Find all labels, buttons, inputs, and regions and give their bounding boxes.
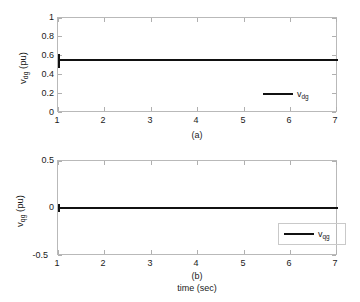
- x-tick-b-top-1: [58, 161, 59, 165]
- y-axis-label-b: vqg (pu): [14, 181, 26, 241]
- y-axis-label-a-text: vdg (pu): [17, 52, 28, 84]
- x-tick-b-top-3: [151, 161, 152, 165]
- y-tick-a-0_4: [58, 74, 62, 75]
- legend-label-vdg: vdg: [297, 89, 309, 100]
- x-tick-a-top-2: [104, 18, 105, 22]
- x-tick-a-4: [197, 107, 198, 111]
- x-tick-b-5: [244, 250, 245, 254]
- x-tick-a-top-4: [197, 18, 198, 22]
- data-trace-vqg-transient: [58, 204, 60, 212]
- x-tick-b-7: [336, 250, 337, 254]
- y-tick-label-a-0_8: 0.8: [28, 31, 54, 41]
- y-tick-a-right-0: [332, 112, 336, 113]
- x-tick-label-b-6: 6: [274, 258, 304, 268]
- x-tick-a-2: [104, 107, 105, 111]
- x-tick-a-top-3: [151, 18, 152, 22]
- legend-line-vqg: [284, 233, 314, 235]
- x-tick-label-a-5: 5: [228, 115, 258, 125]
- y-tick-label-a-1: 1: [28, 12, 54, 22]
- y-tick-a-0_2: [58, 93, 62, 94]
- x-tick-b-top-6: [290, 161, 291, 165]
- x-tick-a-top-1: [58, 18, 59, 22]
- x-tick-b-4: [197, 250, 198, 254]
- legend-label-vqg: vqg: [318, 229, 330, 240]
- plot-area-a: vdg: [57, 17, 337, 112]
- plot-area-b: vqg: [57, 160, 337, 255]
- x-tick-label-b-7: 7: [320, 258, 350, 268]
- y-tick-a-0: [58, 112, 62, 113]
- x-tick-label-a-6: 6: [274, 115, 304, 125]
- y-tick-a-right-0_4: [332, 74, 336, 75]
- x-tick-b-2: [104, 250, 105, 254]
- x-tick-b-3: [151, 250, 152, 254]
- legend-a: vdg: [263, 89, 309, 100]
- y-tick-a-right-0_6: [332, 55, 336, 56]
- subplot-caption-a: (a): [167, 130, 227, 140]
- x-tick-label-b-3: 3: [135, 258, 165, 268]
- data-trace-vdg: [58, 59, 338, 61]
- x-tick-a-top-7: [336, 18, 337, 22]
- x-tick-label-a-1: 1: [42, 115, 72, 125]
- x-tick-b-top-4: [197, 161, 198, 165]
- x-tick-label-a-7: 7: [320, 115, 350, 125]
- y-tick-a-0_8: [58, 36, 62, 37]
- x-tick-b-1: [58, 250, 59, 254]
- x-tick-a-7: [336, 107, 337, 111]
- x-tick-a-5: [244, 107, 245, 111]
- x-tick-label-b-1: 1: [42, 258, 72, 268]
- y-tick-b-neg0_5: [58, 255, 62, 256]
- subplot-a: vdg (pu) 1 0.8 0.6 0.4 0.2 0: [0, 0, 360, 150]
- x-tick-b-top-7: [336, 161, 337, 165]
- y-tick-label-b-0_5: 0.5: [28, 155, 54, 165]
- legend-b: vqg: [284, 229, 330, 240]
- data-trace-vqg: [58, 207, 338, 209]
- y-axis-label-b-text: vqg (pu): [14, 195, 25, 227]
- x-tick-a-6: [290, 107, 291, 111]
- y-tick-label-b-0: 0: [28, 202, 54, 212]
- subplot-b: vqg (pu) 0.5 0 -0.5: [0, 150, 360, 302]
- figure-canvas: vdg (pu) 1 0.8 0.6 0.4 0.2 0: [0, 0, 360, 302]
- x-tick-a-top-5: [244, 18, 245, 22]
- x-tick-label-b-4: 4: [181, 258, 211, 268]
- legend-line-vdg: [263, 93, 293, 95]
- x-tick-label-a-4: 4: [181, 115, 211, 125]
- x-tick-label-a-2: 2: [88, 115, 118, 125]
- y-tick-a-right-0_8: [332, 36, 336, 37]
- x-tick-label-b-2: 2: [88, 258, 118, 268]
- data-trace-vdg-transient: [58, 54, 60, 68]
- x-tick-b-top-2: [104, 161, 105, 165]
- y-tick-label-a-0_6: 0.6: [28, 50, 54, 60]
- x-tick-a-top-6: [290, 18, 291, 22]
- x-tick-b-top-5: [244, 161, 245, 165]
- x-tick-b-6: [290, 250, 291, 254]
- x-tick-label-b-5: 5: [228, 258, 258, 268]
- y-tick-label-a-0_4: 0.4: [28, 69, 54, 79]
- x-tick-a-1: [58, 107, 59, 111]
- y-tick-b-right-neg0_5: [332, 255, 336, 256]
- y-tick-a-right-0_2: [332, 93, 336, 94]
- subplot-caption-b: (b): [167, 271, 227, 281]
- x-tick-label-a-3: 3: [135, 115, 165, 125]
- x-tick-a-3: [151, 107, 152, 111]
- y-tick-label-a-0_2: 0.2: [28, 88, 54, 98]
- x-axis-label-b: time (sec): [157, 283, 237, 293]
